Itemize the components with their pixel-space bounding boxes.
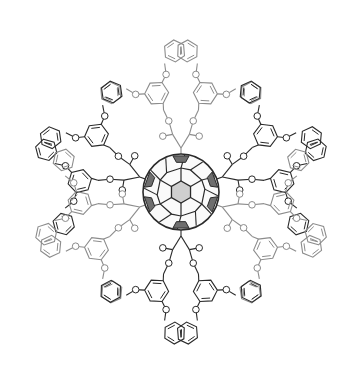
- oxygen-atom-icon: [240, 153, 247, 160]
- double-bond: [102, 134, 105, 142]
- oxygen-atom-icon: [283, 134, 290, 141]
- oxygen-atom-icon: [254, 113, 261, 120]
- oxygen-atom-icon: [159, 245, 166, 252]
- central-hexagon: [171, 181, 190, 203]
- double-bond: [91, 127, 100, 128]
- double-bond: [304, 243, 305, 251]
- double-bond: [322, 147, 324, 155]
- oxygen-atom-icon: [101, 265, 108, 272]
- bond: [124, 177, 140, 180]
- double-bond: [244, 288, 245, 296]
- bond: [252, 145, 258, 148]
- double-bond: [77, 187, 85, 189]
- double-bond: [74, 209, 82, 211]
- bond: [222, 207, 232, 220]
- malonate-adduct-upper-right: [213, 81, 326, 235]
- oxygen-atom-icon: [193, 71, 200, 78]
- bond: [252, 236, 258, 239]
- oxygen-atom-icon: [163, 306, 170, 313]
- bond: [91, 178, 97, 180]
- oxygen-atom-icon: [72, 243, 79, 250]
- oxygen-atom-icon: [196, 133, 203, 140]
- oxygen-atom-icon: [131, 225, 138, 232]
- bond: [264, 178, 270, 180]
- double-bond: [280, 173, 288, 175]
- oxygen-atom-icon: [223, 91, 230, 98]
- malonate-adduct-top: [101, 40, 261, 158]
- double-bond: [39, 148, 41, 156]
- bond: [124, 204, 140, 207]
- double-bond: [276, 195, 284, 197]
- double-bond: [321, 229, 323, 237]
- double-bond: [86, 197, 88, 205]
- oxygen-atom-icon: [132, 91, 139, 98]
- double-bond: [271, 128, 274, 136]
- oxygen-atom-icon: [165, 118, 172, 125]
- double-bond: [304, 133, 305, 141]
- double-bond: [304, 222, 306, 230]
- oxygen-atom-icon: [70, 179, 77, 186]
- bond: [104, 145, 110, 148]
- shaded-cage-face: [173, 156, 189, 162]
- double-bond: [118, 289, 119, 297]
- double-bond: [274, 179, 276, 187]
- oxygen-atom-icon: [72, 134, 79, 141]
- bond: [173, 134, 181, 148]
- oxygen-atom-icon: [101, 113, 108, 120]
- oxygen-atom-icon: [107, 202, 114, 209]
- oxygen-atom-icon: [159, 133, 166, 140]
- bond: [222, 204, 238, 207]
- shaded-cage-face: [173, 222, 189, 228]
- oxygen-atom-icon: [249, 176, 256, 183]
- double-bond: [260, 142, 269, 143]
- double-bond: [39, 229, 41, 237]
- oxygen-atom-icon: [62, 215, 69, 222]
- bond: [222, 177, 238, 180]
- oxygen-atom-icon: [293, 215, 300, 222]
- oxygen-atom-icon: [131, 152, 138, 159]
- c60-fullerene-core: [143, 154, 219, 230]
- oxygen-atom-icon: [224, 225, 231, 232]
- bond: [104, 236, 110, 239]
- double-bond: [304, 154, 306, 162]
- double-bond: [56, 155, 58, 163]
- oxygen-atom-icon: [196, 245, 203, 252]
- bond: [91, 204, 97, 206]
- double-bond: [57, 243, 58, 251]
- bond: [130, 207, 140, 220]
- double-bond: [257, 242, 260, 250]
- bond: [181, 236, 189, 250]
- molecule-drawing: [0, 0, 360, 386]
- oxygen-atom-icon: [240, 225, 247, 232]
- double-bond: [88, 248, 91, 256]
- bond: [130, 164, 140, 177]
- malonate-adduct-lower-right: [213, 149, 326, 303]
- oxygen-atom-icon: [224, 152, 231, 159]
- malonate-adduct-upper-left: [36, 81, 149, 235]
- oxygen-atom-icon: [107, 176, 114, 183]
- oxygen-atom-icon: [223, 286, 230, 293]
- oxygen-atom-icon: [163, 71, 170, 78]
- oxygen-atom-icon: [236, 191, 243, 198]
- bond: [222, 164, 232, 177]
- bond: [264, 204, 270, 206]
- oxygen-atom-icon: [165, 260, 172, 267]
- oxygen-atom-icon: [283, 243, 290, 250]
- oxygen-atom-icon: [190, 260, 197, 267]
- bond: [181, 134, 189, 148]
- bond: [173, 236, 181, 250]
- oxygen-atom-icon: [115, 153, 122, 160]
- oxygen-atom-icon: [132, 286, 139, 293]
- double-bond: [57, 133, 58, 141]
- malonate-adduct-bottom: [101, 226, 261, 344]
- double-bond: [243, 87, 244, 95]
- oxygen-atom-icon: [249, 202, 256, 209]
- oxygen-atom-icon: [119, 191, 126, 198]
- fullerene-dendrimer-diagram: O: [0, 0, 360, 386]
- oxygen-atom-icon: [285, 179, 292, 186]
- oxygen-atom-icon: [115, 225, 122, 232]
- double-bond: [56, 222, 58, 230]
- oxygen-atom-icon: [190, 118, 197, 125]
- double-bond: [93, 241, 102, 242]
- double-bond: [262, 256, 271, 257]
